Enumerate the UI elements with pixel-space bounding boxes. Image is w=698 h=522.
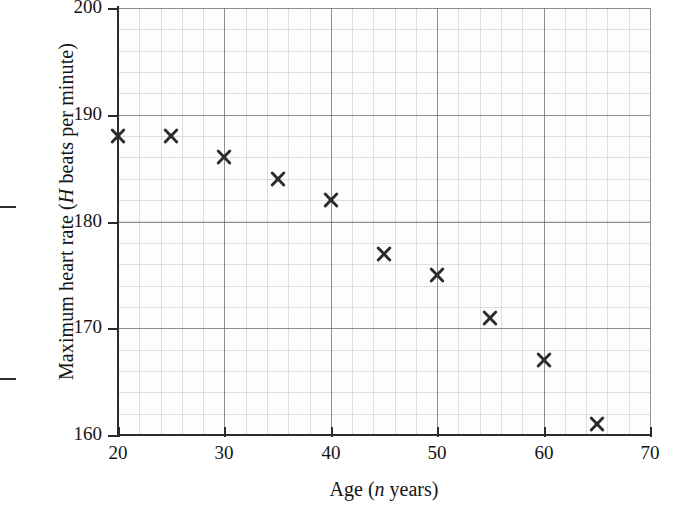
x-axis-tick-20 [118, 427, 120, 437]
gridline-y-200 [118, 8, 650, 9]
y-axis-tick-170 [108, 328, 119, 330]
x-axis-title-pre: Age ( [330, 478, 375, 500]
data-point-marker [534, 350, 554, 370]
x-axis-tick-30 [224, 427, 226, 437]
page-margin-rule-upper [0, 206, 16, 208]
x-axis-variable-n: n [375, 478, 385, 500]
data-point-marker [374, 244, 394, 264]
y-tick-label-170: 170 [42, 316, 102, 338]
data-point-marker [427, 265, 447, 285]
gridline-x-70 [650, 8, 651, 435]
x-axis-title: Age (n years) [118, 478, 650, 501]
scatter-plot-figure: Maximum heart rate (H beats per minute) … [0, 0, 698, 522]
gridline-y-190 [118, 115, 650, 116]
y-axis-tick-200 [108, 8, 119, 10]
y-axis-tick-190 [108, 115, 119, 117]
data-point-marker [214, 147, 234, 167]
x-axis-tick-60 [544, 427, 546, 437]
plot-area [118, 8, 650, 435]
gridline-y-170 [118, 328, 650, 329]
x-tick-label-30: 30 [194, 442, 254, 464]
x-tick-label-20: 20 [88, 442, 148, 464]
x-axis-tick-70 [650, 427, 652, 437]
y-axis-variable-H: H [55, 189, 77, 204]
x-axis-tick-40 [331, 427, 333, 437]
page-margin-rule-lower [0, 378, 16, 380]
data-point-marker [480, 308, 500, 328]
data-point-marker [587, 414, 607, 434]
x-axis-line [117, 434, 651, 436]
data-point-marker [268, 169, 288, 189]
y-tick-label-180: 180 [42, 210, 102, 232]
x-tick-label-50: 50 [407, 442, 467, 464]
y-tick-label-190: 190 [42, 103, 102, 125]
x-tick-label-40: 40 [301, 442, 361, 464]
gridline-y-180 [118, 222, 650, 223]
x-tick-label-60: 60 [514, 442, 574, 464]
data-point-marker [321, 190, 341, 210]
x-tick-label-70: 70 [620, 442, 680, 464]
y-tick-label-200: 200 [42, 0, 102, 18]
data-point-marker [161, 126, 181, 146]
y-axis-tick-180 [108, 222, 119, 224]
x-axis-tick-50 [437, 427, 439, 437]
x-axis-title-post: years) [385, 478, 439, 500]
